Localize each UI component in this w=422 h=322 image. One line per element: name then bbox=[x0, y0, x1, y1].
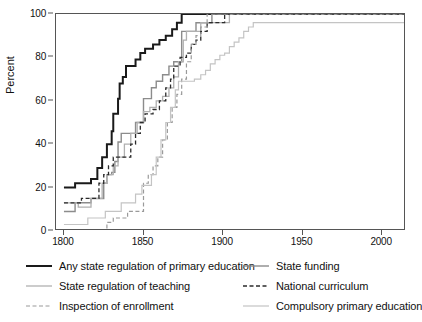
x-tick-label: 1950 bbox=[291, 236, 312, 247]
legend-swatch-icon bbox=[26, 301, 52, 311]
plot-area bbox=[55, 13, 405, 230]
y-tick-label: 80 bbox=[35, 51, 46, 62]
y-tick-mark bbox=[48, 143, 53, 144]
chart-legend: Any state regulation of primary educatio… bbox=[0, 256, 417, 318]
y-axis-title: Percent bbox=[4, 56, 16, 94]
legend-swatch-icon bbox=[243, 281, 269, 291]
y-tick-label: 100 bbox=[30, 8, 46, 19]
y-tick-label: 60 bbox=[35, 94, 46, 105]
x-tick-label: 1800 bbox=[52, 236, 73, 247]
x-tick-mark bbox=[222, 230, 223, 235]
x-axis: 18001850190019502000 bbox=[0, 230, 417, 256]
legend-item-state-funding: State funding bbox=[243, 257, 417, 275]
y-tick-label: 20 bbox=[35, 181, 46, 192]
series-svg bbox=[56, 14, 404, 229]
x-tick-mark bbox=[143, 230, 144, 235]
x-tick-mark bbox=[381, 230, 382, 235]
legend-item-any-state-regulation: Any state regulation of primary educatio… bbox=[26, 257, 241, 275]
legend-item-label: Compulsory primary education bbox=[276, 300, 422, 312]
series-line-compulsory_primary_education bbox=[64, 23, 404, 225]
series-layer bbox=[56, 14, 404, 229]
legend-item-label: State regulation of teaching bbox=[59, 280, 190, 292]
x-tick-mark bbox=[63, 230, 64, 235]
x-tick-label: 1900 bbox=[211, 236, 232, 247]
legend-item-inspection-of-enrollment: Inspection of enrollment bbox=[26, 297, 241, 315]
legend-item-label: National curriculum bbox=[276, 280, 368, 292]
x-tick-label: 1850 bbox=[132, 236, 153, 247]
legend-item-compulsory-primary-education: Compulsory primary education bbox=[243, 297, 417, 315]
legend-item-label: State funding bbox=[276, 260, 340, 272]
y-tick-mark bbox=[48, 56, 53, 57]
legend-swatch-icon bbox=[26, 281, 52, 291]
legend-swatch-icon bbox=[243, 261, 269, 271]
legend-item-label: Any state regulation of primary educatio… bbox=[59, 260, 255, 272]
y-tick-mark bbox=[48, 99, 53, 100]
legend-swatch-icon bbox=[243, 301, 269, 311]
legend-item-state-regulation-teaching: State regulation of teaching bbox=[26, 277, 241, 295]
legend-item-national-curriculum: National curriculum bbox=[243, 277, 417, 295]
y-tick-label: 40 bbox=[35, 138, 46, 149]
x-tick-mark bbox=[302, 230, 303, 235]
y-tick-mark bbox=[48, 13, 53, 14]
x-tick-label: 2000 bbox=[370, 236, 391, 247]
y-tick-mark bbox=[48, 186, 53, 187]
y-axis: Percent 100806040200 bbox=[0, 0, 55, 240]
legend-item-label: Inspection of enrollment bbox=[59, 300, 173, 312]
legend-swatch-icon bbox=[26, 261, 52, 271]
